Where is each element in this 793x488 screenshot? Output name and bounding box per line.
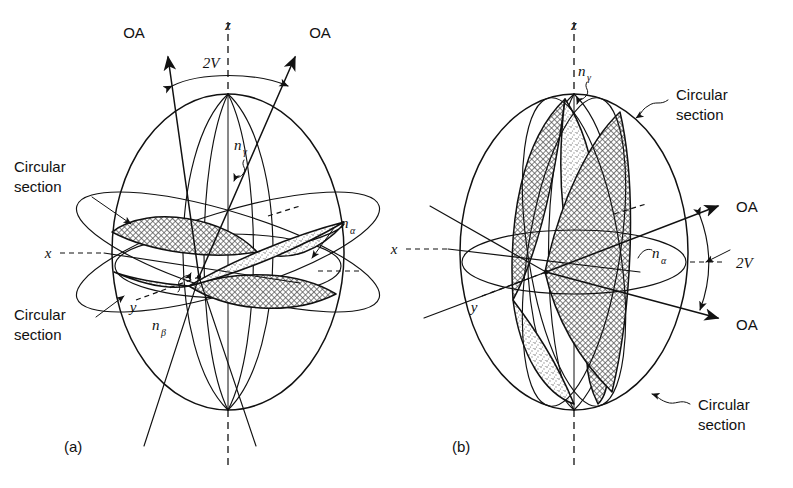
indicatrix-figure: OA OA z 2V Circular section Circular sec…: [0, 0, 793, 488]
n-beta-base-a: n: [152, 317, 160, 333]
n-alpha-sub-a: α: [350, 225, 356, 236]
n-gamma-base-a: n: [234, 137, 242, 153]
x-axis-label-b: x: [390, 241, 398, 257]
optic-axis-label-lower-b: OA: [736, 316, 758, 333]
angle-2v-label-b: 2V: [736, 255, 755, 271]
y-axis-label-a: y: [128, 299, 137, 315]
optic-axis-label-right-a: OA: [309, 24, 331, 41]
n-gamma-base-b: n: [578, 63, 586, 79]
optic-axis-label-upper-b: OA: [736, 198, 758, 215]
n-alpha-base-a: n: [341, 215, 349, 231]
callout-circular-section-upper-line1-a: Circular: [14, 158, 66, 175]
callout-circular-section-lower-line1-b: Circular: [698, 396, 750, 413]
panel-label-b: (b): [452, 438, 470, 455]
callout-circular-section-lower-line1-a: Circular: [14, 306, 66, 323]
panel-label-a: (a): [64, 438, 82, 455]
callout-circular-section-upper-line1-b: Circular: [676, 86, 728, 103]
angle-2v-label-a: 2V: [203, 55, 222, 71]
callout-circular-section-upper-line2-a: section: [14, 178, 62, 195]
z-axis-label-a: z: [224, 17, 231, 33]
n-beta-sub-a: β: [160, 327, 166, 338]
n-alpha-sub-b: α: [661, 255, 667, 266]
callout-circular-section-lower-line2-b: section: [698, 416, 746, 433]
callout-circular-section-upper-line2-b: section: [676, 106, 724, 123]
y-axis-label-b: y: [469, 299, 478, 315]
callout-circular-section-lower-line2-a: section: [14, 326, 62, 343]
x-axis-label-a: x: [44, 245, 52, 261]
optic-axis-label-left-a: OA: [123, 24, 145, 41]
n-alpha-base-b: n: [652, 245, 660, 261]
figure-canvas: OA OA z 2V Circular section Circular sec…: [0, 0, 793, 488]
z-axis-label-b: z: [570, 17, 577, 33]
